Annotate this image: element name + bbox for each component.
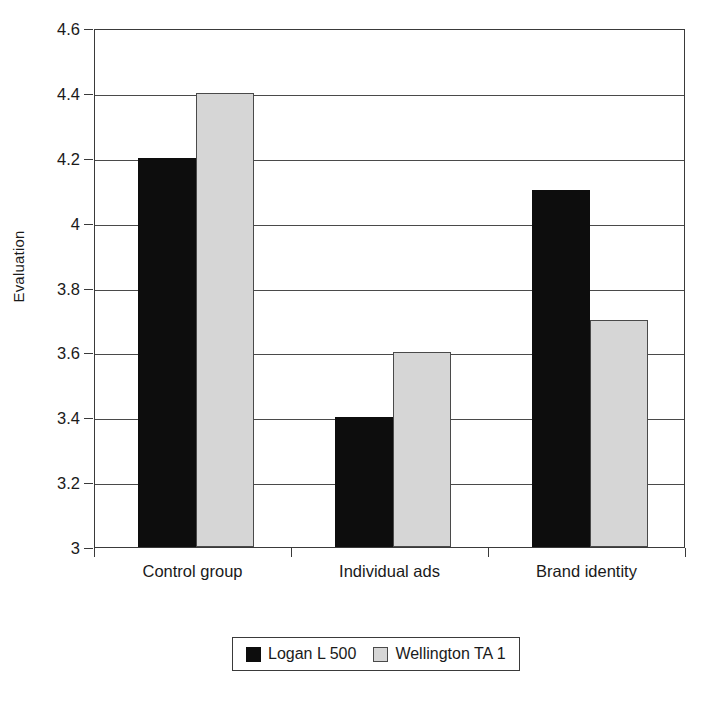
- y-axis-tick-label: 3.6: [28, 344, 80, 363]
- bar: [138, 158, 196, 547]
- bar: [590, 320, 648, 547]
- x-axis-tick-mark: [488, 548, 489, 557]
- x-axis-category-label: Brand identity: [536, 562, 637, 581]
- y-axis-tick-label: 4.4: [28, 84, 80, 103]
- black-square-swatch: [246, 647, 261, 662]
- legend-label: Logan L 500: [268, 645, 356, 663]
- y-axis-title: Evaluation: [10, 187, 27, 347]
- bar: [393, 352, 451, 547]
- y-axis-tick-label: 3.4: [28, 409, 80, 428]
- legend-label: Wellington TA 1: [395, 645, 505, 663]
- y-axis-tick-mark: [84, 224, 93, 225]
- x-axis-tick-mark: [291, 548, 292, 557]
- x-axis-tick-mark: [94, 548, 95, 557]
- gridline: [95, 95, 684, 96]
- legend-entry: Logan L 500: [246, 645, 356, 663]
- y-axis-tick-mark: [84, 548, 93, 549]
- y-axis-tick-label: 3.2: [28, 474, 80, 493]
- x-axis-category-label: Individual ads: [339, 562, 440, 581]
- x-axis-category-label: Control group: [143, 562, 243, 581]
- y-axis-tick-label: 4: [28, 214, 80, 233]
- y-axis-tick-mark: [84, 29, 93, 30]
- plot-area: [94, 29, 685, 548]
- y-axis-tick-label: 4.2: [28, 149, 80, 168]
- y-axis-tick-label: 4.6: [28, 20, 80, 39]
- y-axis-tick-mark: [84, 418, 93, 419]
- y-axis-tick-mark: [84, 94, 93, 95]
- bar: [532, 190, 590, 547]
- bar-chart: Evaluation 33.23.43.63.844.24.44.6 Contr…: [0, 0, 708, 705]
- bar: [196, 93, 254, 547]
- x-axis-tick-mark: [685, 548, 686, 557]
- y-axis-tick-labels: 33.23.43.63.844.24.44.6: [28, 0, 80, 705]
- y-axis-tick-mark: [84, 159, 93, 160]
- gray-square-swatch: [373, 647, 388, 662]
- y-axis-tick-label: 3.8: [28, 279, 80, 298]
- chart-legend: Logan L 500Wellington TA 1: [232, 637, 520, 671]
- y-axis-tick-mark: [84, 353, 93, 354]
- y-axis-tick-mark: [84, 483, 93, 484]
- bar: [335, 417, 393, 547]
- y-axis-tick-mark: [84, 289, 93, 290]
- y-axis-tick-label: 3: [28, 539, 80, 558]
- legend-entry: Wellington TA 1: [373, 645, 505, 663]
